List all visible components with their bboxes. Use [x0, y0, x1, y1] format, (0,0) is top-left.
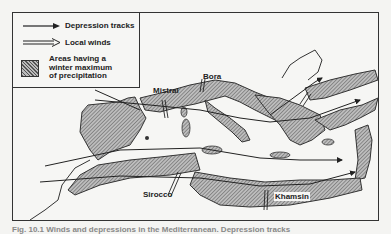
- depression-track-arrow-icon: [21, 22, 61, 30]
- cyprus-island: [322, 139, 334, 145]
- mistral-label: Mistral: [153, 86, 179, 95]
- iberia-region: [80, 97, 146, 160]
- balearic-island: [145, 136, 149, 140]
- legend-depression-tracks: Depression tracks: [21, 21, 134, 30]
- legend-precipitation: Areas having a winter maximum of precipi…: [13, 55, 112, 81]
- sirocco-label: Sirocco: [143, 190, 172, 199]
- map-legend: Depression tracks Local winds Areas havi…: [12, 12, 140, 88]
- figure-caption: Fig. 10.1 Winds and depressions in the M…: [12, 225, 290, 234]
- khamsin-label: Khamsin: [274, 192, 310, 201]
- local-wind-arrow-icon: [21, 38, 61, 47]
- sardinia-island: [182, 119, 190, 137]
- legend-winds-label: Local winds: [65, 38, 111, 47]
- legend-depression-label: Depression tracks: [65, 21, 134, 30]
- black-sea-coast: [282, 50, 322, 80]
- legend-local-winds: Local winds: [21, 38, 111, 47]
- crete-island: [270, 152, 290, 158]
- levant-region: [355, 125, 372, 180]
- italy-region: [205, 100, 250, 142]
- turkey-region: [305, 70, 378, 100]
- hatched-area-swatch-icon: [21, 60, 39, 77]
- bora-label: Bora: [203, 72, 221, 81]
- legend-precip-line3: of precipitation: [49, 72, 112, 81]
